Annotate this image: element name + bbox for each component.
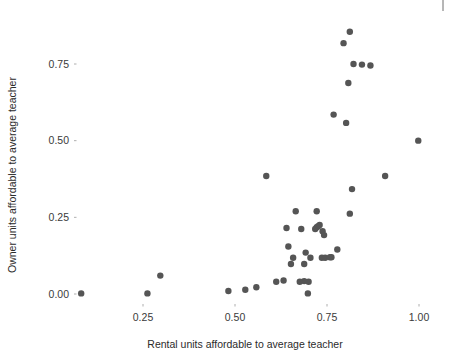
scatter-point [327,254,333,260]
scatter-point [305,279,311,285]
scatter-point [280,277,286,283]
x-axis-title: Rental units affordable to average teach… [147,338,343,350]
scatter-point [340,40,346,46]
scatter-point [283,225,289,231]
scatter-point [334,246,340,252]
scatter-point [382,173,388,179]
scatter-point [347,210,353,216]
scatter-point [298,226,304,232]
scatter-point [350,61,356,67]
scatter-point [290,255,296,261]
scatter-point [157,272,163,278]
plot-canvas: 0.000.250.500.75 0.250.500.751.00 Rental… [0,0,454,359]
scatter-point [144,290,150,296]
y-tick-label: 0.75 [49,58,70,70]
scatter-point [305,290,311,296]
scatter-point [288,261,294,267]
scatter-point [307,255,313,261]
x-tick-label: 0.25 [133,311,154,323]
scatter-plot-figure: 0.000.250.500.75 0.250.500.751.00 Rental… [0,0,454,359]
scatter-point [415,137,421,143]
scatter-point [347,29,353,35]
scatter-point [78,290,84,296]
scatter-point [225,288,231,294]
y-tick-label: 0.00 [49,288,70,300]
scatter-point [301,261,307,267]
scatter-point [343,120,349,126]
scatter-point [359,61,365,67]
y-axis-title: Owner units affordable to average teache… [6,77,18,273]
scatter-point [242,287,248,293]
scatter-point [330,111,336,117]
y-tick-label: 0.50 [49,134,70,146]
x-tick-label: 1.00 [409,311,430,323]
scatter-point [293,208,299,214]
plot-background [0,0,454,359]
scatter-point [273,279,279,285]
y-tick-label: 0.25 [49,211,70,223]
scatter-point [314,208,320,214]
scatter-point [297,279,303,285]
scatter-point [321,232,327,238]
scatter-point [302,249,308,255]
scatter-point [367,62,373,68]
scatter-point [345,80,351,86]
x-tick-label: 0.50 [225,311,246,323]
scatter-point [349,186,355,192]
scatter-point [285,243,291,249]
scatter-point [316,222,322,228]
scatter-point [253,284,259,290]
scatter-point [263,173,269,179]
x-tick-label: 0.75 [317,311,338,323]
